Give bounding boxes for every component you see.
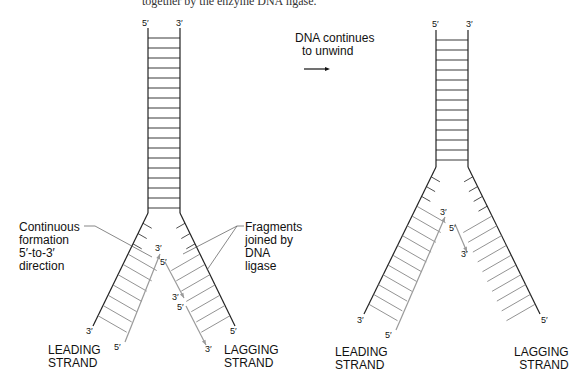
left-lagging-5prime-top: 5′ [160,257,167,267]
fragments-joined-note: Fragments joined by DNA ligase [245,221,302,273]
right-stem-3prime: 3′ [466,19,473,29]
base-pair-rung [123,264,152,281]
right-template-strand [468,167,540,314]
base-pair-rung [383,275,412,292]
left-lagging-3prime-bottom: 3′ [205,344,212,354]
base-pair-rung [388,265,417,282]
base-pair-rung [374,294,403,311]
base-pair-rung [176,223,185,228]
base-pair-rung [478,245,507,262]
base-pair-rung [497,285,526,302]
left-lagging-5prime-mid: 5′ [177,302,184,312]
left-leading-strand-label: LEADING STRAND [48,344,101,370]
base-pair-rung [468,226,497,243]
annotation-leader [207,226,237,270]
leading-arrow-icon [441,217,445,222]
leading-new-strand [125,254,160,342]
right-lagging-5prime-top: 5′ [449,223,456,233]
base-pair-rung [201,316,230,333]
base-pair-rung [502,294,531,311]
base-pair-rung [431,177,440,182]
base-pair-rung [138,234,147,239]
base-pair-rung [492,275,521,292]
base-pair-rung [487,265,516,282]
base-pair-rung [113,285,142,302]
right-leading-5prime-bottom: 5′ [385,330,392,340]
left-stem-3prime: 3′ [176,18,183,28]
base-pair-rung [186,285,215,302]
base-pair-rung [128,254,157,271]
base-pair-rung [118,275,147,292]
continuous-formation-note: Continuous formation 5′-to-3′ direction [19,221,80,273]
right-lagging-strand-label: LAGGING STRAND [514,346,569,372]
base-pair-rung [482,255,511,272]
base-pair-rung [398,245,427,262]
base-pair-rung [108,295,137,312]
left-template-strand [364,167,436,314]
dna-replication-diagram: together by the enzyme DNA ligase. 5′ 3′… [0,0,582,385]
base-pair-rung [103,305,132,322]
base-pair-rung [378,285,407,302]
unwind-note: DNA continues to unwind [295,32,374,58]
base-pair-rung [143,223,152,228]
annotation-leader [95,226,152,257]
base-pair-rung [181,234,190,239]
right-lagging-3prime-bottom: 3′ [461,249,468,259]
base-pair-rung [181,275,210,292]
left-lagging-5prime-outer: 5′ [230,326,237,336]
base-pair-rung [176,264,205,281]
base-pair-rung [171,254,200,271]
unwind-arrow-icon [325,67,330,71]
base-pair-rung [463,216,492,233]
base-pair-rung [196,305,225,322]
base-pair-rung [474,196,483,201]
base-pair-rung [402,236,431,253]
left-template-strand [93,213,148,326]
lagging-arrow-icon [180,293,184,298]
right-leading-3prime-bottom: 3′ [357,315,364,325]
right-leading-3prime-top: 3′ [440,207,447,217]
right-leading-strand-label: LEADING STRAND [335,346,388,372]
base-pair-rung [464,177,473,182]
base-pair-rung [479,206,488,211]
base-pair-rung [412,216,441,233]
annotation-leader [183,226,237,254]
left-stem-5prime: 5′ [142,18,149,28]
base-pair-rung [473,236,502,253]
base-pair-rung [426,187,435,192]
base-pair-rung [133,244,142,249]
base-pair-rung [469,187,478,192]
left-lagging-strand-label: LAGGING STRAND [224,344,279,370]
left-lagging-3prime-mid: 3′ [172,292,179,302]
base-pair-rung [191,295,220,312]
right-stem-5prime: 5′ [432,19,439,29]
base-pair-rung [506,304,535,321]
left-leading-5prime-bottom: 5′ [114,342,121,352]
right-lagging-5prime-outer: 5′ [541,315,548,325]
base-pair-rung [422,196,431,201]
base-pair-rung [98,316,127,333]
left-leading-3prime-top: 3′ [155,243,162,253]
lagging-fragment [186,306,206,345]
base-pair-rung [407,226,436,243]
base-pair-rung [369,304,398,321]
left-leading-3prime-bottom: 3′ [86,326,93,336]
base-pair-rung [393,255,422,272]
